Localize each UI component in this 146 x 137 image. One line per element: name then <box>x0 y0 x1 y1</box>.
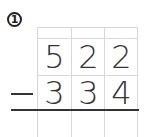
minus-sign <box>11 93 33 95</box>
problem-number-badge: 1 <box>7 12 22 27</box>
grid-line <box>37 27 137 28</box>
minuend-tens: 2 <box>72 39 105 75</box>
minuend-hundreds: 5 <box>38 39 71 75</box>
minuend-ones: 2 <box>105 39 138 75</box>
answer-hundreds[interactable] <box>38 111 71 137</box>
subtrahend-ones: 4 <box>105 75 138 111</box>
answer-tens[interactable] <box>72 111 105 137</box>
subtrahend-hundreds: 3 <box>38 75 71 111</box>
answer-ones[interactable] <box>105 111 138 137</box>
subtrahend-tens: 3 <box>72 75 105 111</box>
